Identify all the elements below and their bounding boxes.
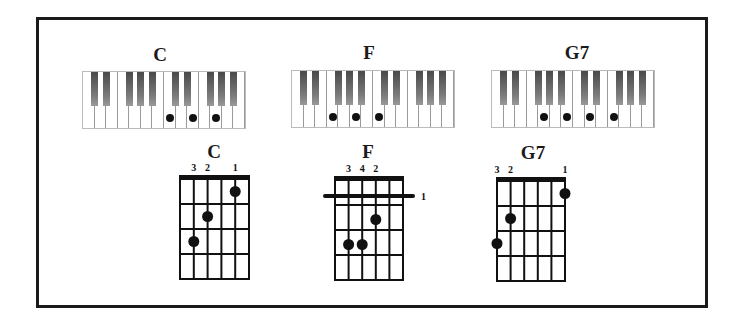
guitar-nut	[179, 175, 250, 180]
finger-dot	[370, 214, 381, 225]
finger-number: 2	[205, 162, 210, 173]
finger-dot	[505, 213, 516, 224]
guitar-nut	[496, 177, 566, 182]
finger-number: 2	[508, 164, 513, 175]
guitar-chord-diagrams: 3211342321	[0, 0, 747, 322]
finger-number: 1	[563, 164, 568, 175]
guitar-nut	[334, 176, 404, 181]
finger-dot	[357, 239, 368, 250]
finger-dot	[560, 188, 571, 199]
finger-number: 3	[191, 162, 196, 173]
finger-dot	[230, 186, 241, 197]
finger-number: 1	[233, 162, 238, 173]
finger-dot	[188, 236, 199, 247]
finger-dot	[202, 211, 213, 222]
finger-number: 4	[360, 163, 365, 174]
finger-number: 2	[373, 163, 378, 174]
finger-number: 3	[346, 163, 351, 174]
finger-dot	[492, 238, 503, 249]
finger-number: 3	[495, 164, 500, 175]
barre-fret-label: 1	[421, 191, 426, 202]
finger-dot	[343, 239, 354, 250]
